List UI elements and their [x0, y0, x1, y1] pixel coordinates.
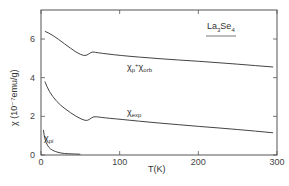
- label-chi-p-orb: χp+χorb: [127, 62, 153, 73]
- label-chi-pi: χpi: [44, 133, 53, 144]
- y-tick-label: 0: [30, 150, 35, 160]
- y-tick-label: 4: [30, 73, 35, 83]
- chart: 01002003000246 χ (10⁻⁷emu/g) T(K) La3Se4…: [0, 0, 289, 186]
- label-chi-exp: χexp: [127, 107, 142, 118]
- x-tick-label: 100: [112, 157, 127, 167]
- chart-title: La3Se4: [207, 21, 235, 33]
- curves: [43, 31, 273, 154]
- x-tick-label: 200: [191, 157, 206, 167]
- curve-chi-exp: [45, 82, 273, 133]
- y-tick-label: 2: [30, 111, 35, 121]
- y-axis-label: χ (10⁻⁷emu/g): [9, 69, 19, 126]
- x-axis-label: T(K): [148, 164, 166, 174]
- x-tick-label: 300: [269, 157, 284, 167]
- axis-ticks: 01002003000246: [30, 10, 285, 167]
- x-tick-label: 0: [38, 157, 43, 167]
- curve-chi-p-orb: [45, 31, 273, 67]
- plot-frame: [41, 10, 277, 155]
- y-tick-label: 6: [30, 34, 35, 44]
